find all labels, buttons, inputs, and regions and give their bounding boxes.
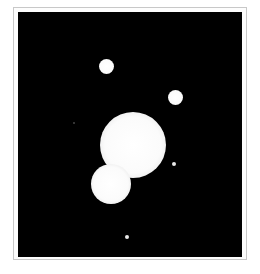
astronomical-photo [18, 12, 242, 257]
moon-upper-right [168, 90, 183, 105]
small-dot-bottom [125, 235, 129, 239]
secondary-body [91, 164, 131, 204]
small-dot-right [172, 162, 176, 166]
faint-dot-left [73, 122, 75, 124]
moon-upper-left [99, 59, 114, 74]
